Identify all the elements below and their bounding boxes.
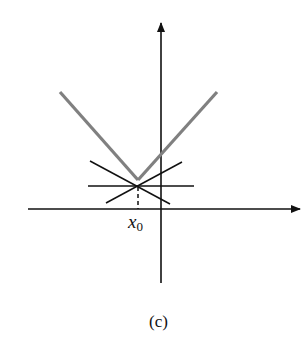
subgradient-diagram: [0, 0, 308, 347]
figure-canvas: x0 (c): [0, 0, 308, 347]
v-curve-right-branch: [138, 92, 217, 180]
figure-caption: (c): [149, 312, 168, 332]
v-curve-left-branch: [60, 92, 138, 180]
tangent-line-descending: [90, 161, 170, 204]
tangent-line-ascending: [106, 162, 182, 203]
x0-label: x0: [128, 211, 143, 235]
x0-label-subscript: 0: [136, 219, 143, 234]
